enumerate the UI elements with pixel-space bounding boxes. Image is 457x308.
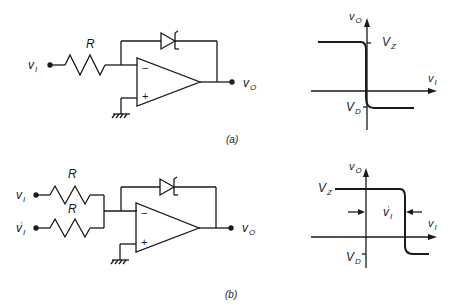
- resistor-label-a: R: [86, 38, 95, 50]
- zener-diode-a: [161, 31, 179, 49]
- vd-label-a: VD: [346, 101, 361, 115]
- circuit-a: [48, 31, 234, 118]
- zener-diode-b: [160, 177, 178, 195]
- y-axis-label-b: vO: [349, 160, 362, 174]
- resistor2-b: [50, 219, 90, 237]
- output-label-a: vO: [243, 77, 256, 91]
- caption-b: (b): [225, 289, 237, 300]
- opamp-minus-a: −: [142, 62, 148, 74]
- resistor2-label-b: R: [68, 203, 77, 215]
- resistor1-label-b: R: [68, 168, 77, 180]
- transfer-characteristic-a: [311, 18, 437, 130]
- offset-label-b: vI': [383, 206, 389, 220]
- input-label-a: vI: [28, 59, 37, 73]
- input1-label-b: vI: [16, 189, 25, 203]
- vz-label-a: VZ: [382, 36, 396, 50]
- output-terminal-b: [229, 226, 233, 230]
- y-axis-label-a: vO: [349, 10, 362, 24]
- input2-label-b: vI': [16, 222, 22, 236]
- ground-icon-b: [111, 260, 129, 264]
- opamp-plus-a: +: [142, 90, 148, 102]
- caption-a: (a): [226, 134, 238, 145]
- x-axis-label-b: vI: [428, 217, 437, 231]
- opamp-plus-b: +: [141, 236, 147, 248]
- x-axis-label-a: vI: [428, 72, 437, 86]
- vz-label-b: VZ: [318, 182, 332, 196]
- resistor-a: [65, 55, 105, 75]
- vd-label-b: VD: [346, 251, 361, 265]
- ground-icon-a: [112, 114, 130, 118]
- output-terminal-a: [230, 80, 234, 84]
- opamp-minus-b: −: [141, 207, 147, 219]
- circuit-b: [34, 177, 233, 264]
- output-label-b: vO: [242, 222, 255, 236]
